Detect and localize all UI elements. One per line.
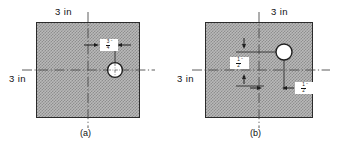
- hole-b: [276, 44, 292, 60]
- dimension-callout-b-vertical: 1 2 ": [230, 57, 249, 69]
- caption-b: (b): [250, 128, 261, 138]
- dimension-arrow-left-a: [84, 43, 99, 47]
- panel-a: 3 4 " 3 in 3 in (a): [0, 0, 172, 149]
- dimension-arrow-left-b: [250, 86, 262, 90]
- dimension-arrow-right-a: [117, 43, 131, 47]
- top-label-b: 3 in: [271, 6, 288, 17]
- fraction-1-2-horizontal: 1 2 ": [301, 83, 307, 93]
- dimension-callout-a-horizontal: 3 4 ": [100, 39, 118, 51]
- fraction-denominator: 4: [106, 45, 111, 51]
- fraction-unit: ": [111, 40, 113, 44]
- engineering-figure: 3 4 " 3 in 3 in (a): [0, 0, 344, 149]
- dimension-arrow-down-b: [242, 38, 246, 49]
- left-label-a: 3 in: [9, 73, 26, 84]
- panel-b-annotations: [172, 0, 344, 149]
- fraction-3-4: 3 4 ": [106, 40, 112, 50]
- caption-a: (a): [80, 128, 91, 138]
- fraction-1-2-vertical: 1 2 ": [236, 58, 242, 68]
- fraction-denominator: 2: [236, 63, 241, 69]
- panel-b: 1 2 " 1 2 " 3 in 3 in (b): [172, 0, 344, 149]
- fraction-unit: ": [306, 83, 308, 87]
- fraction-denominator: 2: [301, 88, 306, 94]
- fraction-unit: ": [241, 58, 243, 62]
- top-label-a: 3 in: [55, 6, 72, 17]
- dimension-callout-b-horizontal: 1 2 ": [295, 82, 314, 94]
- left-label-b: 3 in: [177, 73, 194, 84]
- dimension-arrow-up-b: [242, 74, 246, 84]
